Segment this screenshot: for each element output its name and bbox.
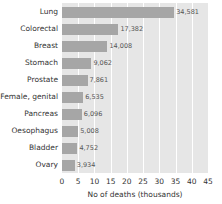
bar-row: Prostate7,861 [0, 71, 222, 88]
x-tick-label: 35 [171, 177, 181, 186]
bar-row: Lung34,581 [0, 3, 222, 20]
bar [62, 41, 107, 52]
bar-row: Colorectal17,382 [0, 20, 222, 37]
category-label: Oesophagus [11, 122, 58, 139]
value-label: 9,062 [93, 54, 112, 71]
value-label: 3,934 [77, 156, 96, 173]
x-tick-label: 40 [187, 177, 197, 186]
x-tick-label: 25 [138, 177, 148, 186]
bar [62, 24, 118, 35]
category-label: Colorectal [20, 20, 58, 37]
bar-row: Ovary3,934 [0, 156, 222, 173]
x-tick-label: 10 [90, 177, 100, 186]
x-tick-label: 20 [122, 177, 132, 186]
bar-row: Female, genital6,535 [0, 88, 222, 105]
category-label: Lung [40, 3, 58, 20]
bar-row: Pancreas6,096 [0, 105, 222, 122]
category-label: Female, genital [0, 88, 58, 105]
value-label: 4,752 [79, 139, 98, 156]
bar-row: Stomach9,062 [0, 54, 222, 71]
category-label: Bladder [29, 139, 58, 156]
x-tick-label: 5 [76, 177, 81, 186]
x-tick-label: 30 [155, 177, 165, 186]
value-label: 34,581 [176, 3, 199, 20]
category-label: Stomach [25, 54, 58, 71]
category-label: Ovary [36, 156, 58, 173]
value-label: 6,096 [84, 105, 103, 122]
category-label: Prostate [27, 71, 58, 88]
bar-row: Breast14,008 [0, 37, 222, 54]
value-label: 14,008 [109, 37, 132, 54]
value-label: 7,861 [90, 71, 109, 88]
bar [62, 75, 88, 86]
bar-row: Bladder4,752 [0, 139, 222, 156]
x-tick-label: 0 [60, 177, 65, 186]
bar-row: Oesophagus5,008 [0, 122, 222, 139]
bar [62, 109, 82, 120]
bar [62, 92, 83, 103]
value-label: 17,382 [120, 20, 143, 37]
category-label: Pancreas [24, 105, 58, 122]
category-label: Breast [34, 37, 58, 54]
value-label: 5,008 [80, 122, 99, 139]
value-label: 6,535 [85, 88, 104, 105]
bar [62, 58, 91, 69]
x-tick-label: 45 [203, 177, 213, 186]
bar [62, 126, 78, 137]
bar [62, 160, 75, 171]
x-axis-label: No of deaths (thousands) [62, 190, 208, 199]
bar [62, 7, 174, 18]
bar [62, 143, 77, 154]
x-tick-label: 15 [106, 177, 116, 186]
